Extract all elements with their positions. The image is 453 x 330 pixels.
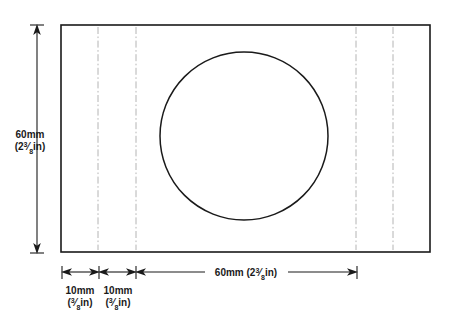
technical-drawing-canvas: 60mm (23⁄8in) 60mm (23⁄8in) 10mm (0, 0, 453, 330)
margin-second-metric-label: 10mm (104, 285, 133, 296)
technical-drawing: 60mm (23⁄8in) 60mm (23⁄8in) 10mm (0, 0, 453, 330)
margin-first-metric-label: 10mm (66, 285, 95, 296)
height-dimension-metric-label: 60mm (16, 129, 45, 140)
drawing-background (0, 0, 453, 330)
